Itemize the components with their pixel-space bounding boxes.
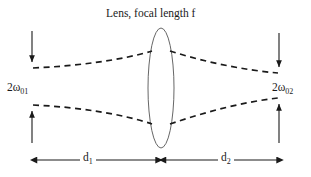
diagram-title: Lens, focal length f bbox=[106, 8, 195, 20]
distance-left-symbol: d bbox=[83, 151, 89, 163]
waist-left-symbol: 2ω bbox=[7, 81, 20, 93]
beam-upper-left bbox=[33, 51, 152, 68]
lens-beam-diagram: Lens, focal length f 2ω01 2ω02 d1 d2 bbox=[0, 0, 311, 177]
distance-right-symbol: d bbox=[221, 151, 227, 163]
beam-envelope bbox=[33, 51, 278, 124]
waist-right-label: 2ω02 bbox=[272, 82, 293, 94]
waist-left-label: 2ω01 bbox=[7, 82, 28, 94]
lens-element bbox=[148, 28, 174, 148]
distance-right-label: d2 bbox=[218, 152, 234, 164]
waist-right-subscript: 02 bbox=[285, 87, 293, 96]
distance-left-subscript: 1 bbox=[89, 157, 93, 166]
waist-left-subscript: 01 bbox=[20, 87, 28, 96]
waist-right-symbol: 2ω bbox=[272, 81, 285, 93]
diagram-canvas bbox=[0, 0, 311, 177]
beam-lower-left bbox=[33, 105, 152, 124]
beam-upper-right bbox=[170, 51, 278, 73]
beam-lower-right bbox=[170, 98, 278, 124]
distance-right-subscript: 2 bbox=[227, 157, 231, 166]
distance-left-label: d1 bbox=[80, 152, 96, 164]
